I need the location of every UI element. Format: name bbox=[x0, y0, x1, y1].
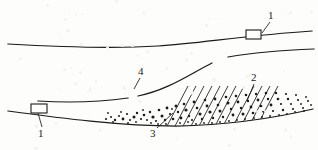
clast-dot bbox=[196, 107, 199, 110]
clast-dot bbox=[126, 113, 128, 115]
clast-dot bbox=[250, 106, 253, 109]
clast-dot bbox=[255, 93, 257, 95]
clast-dot bbox=[191, 119, 193, 121]
clast-dot bbox=[158, 109, 161, 112]
clast-dot bbox=[265, 92, 268, 95]
callout-2-label: 2 bbox=[251, 72, 257, 83]
clast-dot bbox=[177, 111, 179, 113]
cross-section-drawing bbox=[0, 0, 318, 150]
clast-dot bbox=[188, 115, 190, 117]
clast-dot bbox=[222, 116, 224, 118]
clast-dot bbox=[180, 117, 183, 120]
callout-1-top-label: 1 bbox=[268, 10, 274, 21]
clast-dot bbox=[195, 123, 197, 125]
clast-dot bbox=[155, 120, 157, 122]
clast-dot bbox=[275, 92, 277, 94]
clast-dot bbox=[201, 118, 203, 120]
clast-dot bbox=[310, 104, 312, 106]
clast-dot bbox=[214, 98, 217, 101]
clast-dot bbox=[183, 103, 186, 106]
strata-line-group bbox=[8, 31, 314, 126]
clast-dot bbox=[260, 105, 263, 108]
middle-boundary-segment-1 bbox=[38, 98, 128, 102]
clast-dot bbox=[166, 107, 169, 110]
clast-dot bbox=[282, 109, 284, 111]
clast-dot bbox=[227, 102, 230, 105]
clast-dot bbox=[143, 114, 146, 117]
middle-boundary-segment-3 bbox=[228, 49, 314, 57]
clast-dot bbox=[212, 117, 214, 119]
clast-dot bbox=[262, 111, 264, 113]
clast-dot bbox=[278, 114, 280, 116]
clast-dot bbox=[171, 108, 173, 110]
clast-dot bbox=[240, 107, 242, 109]
clast-dot bbox=[290, 103, 292, 105]
clast-dot bbox=[257, 99, 260, 102]
geological-cross-section-figure: 11234 bbox=[0, 0, 318, 150]
clast-dot bbox=[135, 121, 137, 123]
clast-dot bbox=[244, 118, 246, 120]
clast-dot bbox=[286, 113, 288, 115]
clast-dot bbox=[114, 119, 116, 121]
clast-dot bbox=[206, 105, 209, 108]
clast-dot bbox=[235, 95, 238, 98]
clast-dot bbox=[236, 119, 238, 121]
clast-dot bbox=[105, 118, 107, 120]
clast-dot bbox=[217, 104, 220, 107]
callout-1-top-leader-line bbox=[262, 22, 270, 33]
building-left bbox=[31, 104, 47, 113]
callout-3-label: 3 bbox=[150, 128, 156, 139]
clast-dot bbox=[127, 122, 129, 124]
clast-dot bbox=[253, 117, 255, 119]
clast-dot bbox=[203, 122, 205, 124]
clast-dot bbox=[252, 112, 255, 115]
clast-dot bbox=[140, 118, 142, 120]
clast-dot bbox=[187, 121, 189, 123]
upper-ground-surface-line bbox=[8, 31, 312, 47]
clast-dot bbox=[112, 121, 114, 123]
clast-dot bbox=[261, 116, 263, 118]
clast-dot bbox=[285, 93, 287, 95]
clast-dot bbox=[120, 111, 122, 113]
clast-dot bbox=[297, 99, 299, 101]
clast-dot bbox=[237, 101, 240, 104]
clast-dot bbox=[133, 116, 136, 119]
clast-dot bbox=[294, 111, 296, 113]
clast-dot bbox=[199, 113, 202, 116]
clast-dot bbox=[146, 119, 148, 121]
clast-dot bbox=[269, 115, 271, 117]
callout-2-leader-line bbox=[247, 84, 254, 101]
clast-dot bbox=[142, 109, 144, 111]
clast-dot bbox=[225, 96, 228, 99]
clast-dot bbox=[245, 94, 248, 97]
building-right bbox=[246, 30, 261, 39]
clast-dot bbox=[122, 118, 125, 121]
middle-dashed-boundary-line bbox=[38, 49, 314, 102]
clast-dot bbox=[228, 120, 230, 122]
clast-dot bbox=[165, 123, 167, 125]
lower-bedrock-boundary-line bbox=[8, 109, 313, 126]
clast-dot bbox=[305, 96, 307, 98]
clast-dot bbox=[267, 98, 269, 100]
clast-dot bbox=[149, 111, 151, 113]
clast-dot bbox=[280, 103, 282, 105]
building-symbol-group bbox=[31, 30, 261, 113]
clast-dot bbox=[211, 122, 213, 124]
clast-dot bbox=[272, 110, 274, 112]
clast-dot bbox=[129, 119, 131, 121]
clast-dot bbox=[230, 108, 232, 110]
clast-dot bbox=[287, 98, 289, 100]
clast-dot bbox=[161, 115, 164, 118]
clast-dot bbox=[219, 121, 221, 123]
clast-dot bbox=[193, 101, 196, 104]
clast-dot bbox=[303, 110, 305, 112]
clast-dot bbox=[208, 110, 211, 113]
callout-4-label: 4 bbox=[138, 66, 144, 77]
clast-dot bbox=[295, 94, 297, 96]
clast-dot bbox=[110, 116, 112, 118]
clast-dot bbox=[307, 100, 309, 102]
clast-dot bbox=[204, 99, 207, 102]
clast-dot bbox=[219, 110, 222, 113]
clast-dot bbox=[302, 107, 304, 109]
clast-dot bbox=[232, 114, 235, 117]
